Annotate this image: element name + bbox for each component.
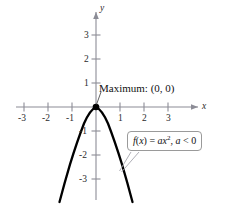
callout-leader-line-lower: [122, 152, 140, 172]
x-tick-label--2: -2: [42, 114, 50, 124]
x-tick-label-3: 3: [166, 114, 171, 124]
y-tick-label--3: -3: [79, 175, 87, 185]
x-tick-label-2: 2: [142, 114, 147, 124]
function-callout-box: f(x) = ax2, a < 0: [127, 131, 202, 151]
y-tick-label-1: 1: [84, 79, 89, 89]
callout-condition-lt: < 0: [181, 135, 197, 146]
y-axis-arrowhead: [93, 12, 99, 19]
x-tick-label--1: -1: [66, 114, 74, 124]
y-axis-label: y: [100, 4, 104, 14]
x-tick-label--3: -3: [18, 114, 26, 124]
y-tick-label-2: 2: [84, 55, 89, 65]
vertex-point: [93, 104, 100, 111]
x-tick-label-1: 1: [118, 114, 123, 124]
plot-canvas: [0, 0, 225, 212]
callout-equals: =: [147, 135, 158, 146]
x-axis-label: x: [202, 102, 206, 112]
y-tick-label--1: -1: [79, 127, 87, 137]
parabola-figure: -3 -2 -1 1 2 3 3 2 1 -1 -2 -3 x y Maximu…: [0, 0, 225, 212]
y-tick-label--2: -2: [79, 151, 87, 161]
y-tick-label-3: 3: [84, 31, 89, 41]
x-axis-arrowhead: [191, 104, 198, 110]
maximum-annotation: Maximum: (0, 0): [99, 83, 174, 94]
